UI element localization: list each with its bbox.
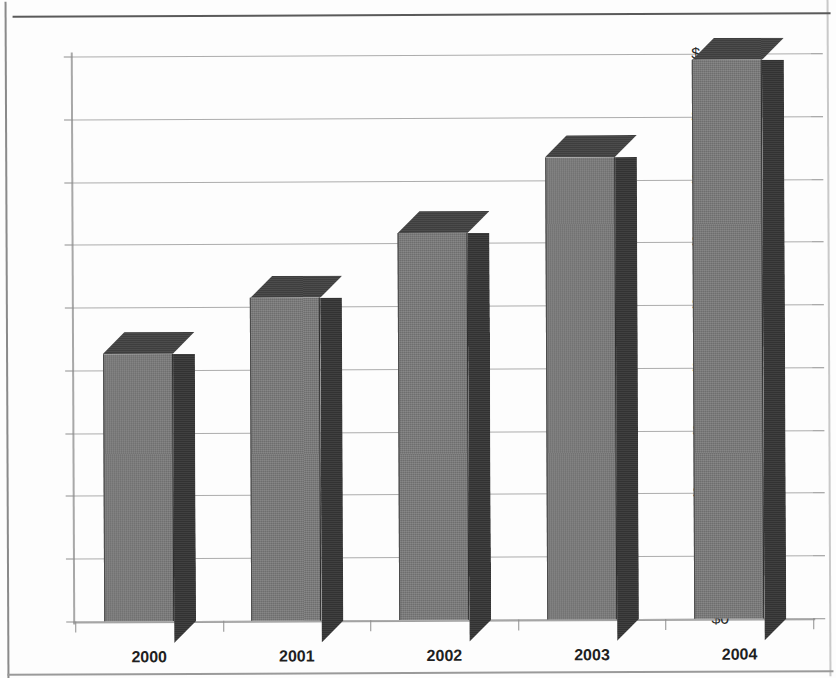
bar-column (250, 276, 344, 621)
bar-column (103, 332, 196, 622)
bar-side-face (320, 298, 344, 643)
y-axis-tick-mark-right (812, 367, 824, 368)
bar-front-face (545, 157, 617, 619)
bar-top-face (545, 135, 637, 157)
y-axis-tick-mark (65, 433, 74, 434)
x-axis-tick-label: 2004 (666, 645, 814, 664)
bar-front-face (398, 233, 470, 620)
bar-top-face (103, 332, 195, 354)
y-axis-tick-mark (65, 370, 74, 371)
y-axis-tick-mark (66, 559, 75, 560)
y-axis-tick-mark-right (811, 179, 823, 180)
bar-top-face (692, 38, 784, 60)
y-axis-tick-mark-right (812, 430, 824, 431)
x-axis-tick-label: 2000 (75, 648, 223, 667)
y-axis-line (71, 53, 75, 625)
y-axis-tick-mark (64, 119, 73, 120)
bar-side-face (468, 233, 492, 642)
bar-side-face (173, 354, 196, 644)
y-axis-tick-mark (65, 308, 74, 309)
x-axis-tick-label: 2001 (223, 647, 371, 666)
x-axis-tick-label: 2002 (371, 647, 519, 666)
x-axis-tick-label: 2003 (518, 646, 666, 665)
bar-top-face (397, 211, 489, 233)
bar-column (692, 38, 787, 619)
y-axis-tick-mark (64, 57, 73, 58)
scanned-plate: $0$50$100$150$200$250$300$350$400$450 20… (0, 0, 836, 678)
chart-title (158, 0, 718, 5)
document-frame-left-border (5, 2, 10, 678)
bar-front-face (103, 354, 174, 622)
title-underline-rule (13, 12, 831, 18)
x-axis-tick-mark (666, 619, 667, 630)
y-axis-tick-mark (64, 182, 73, 183)
bar-top-face (250, 276, 342, 298)
bar-column (545, 135, 639, 619)
y-axis-tick-mark (66, 621, 75, 622)
x-axis-tick-mark (813, 618, 814, 629)
x-axis-tick-mark (518, 620, 519, 631)
document-frame-right-border (827, 0, 832, 676)
bar-side-face (615, 157, 639, 641)
y-axis-tick-mark-right (813, 618, 825, 619)
bar-front-face (250, 298, 321, 621)
y-axis-tick-mark (65, 245, 74, 246)
x-axis-tick-mark (75, 621, 76, 632)
plot-area: $0$50$100$150$200$250$300$350$400$450 20… (73, 53, 813, 621)
bar-side-face (762, 60, 787, 641)
y-axis-tick-mark (66, 496, 75, 497)
y-axis-tick-mark-right (811, 116, 823, 117)
y-axis-tick-mark-right (813, 493, 825, 494)
bar-front-face (692, 60, 764, 619)
y-axis-tick-mark-right (811, 53, 823, 54)
x-axis-tick-mark (223, 621, 224, 632)
bar-chart-figure: $0$50$100$150$200$250$300$350$400$450 20… (0, 0, 836, 678)
y-axis-tick-mark-right (812, 242, 824, 243)
y-axis-tick-mark-right (812, 304, 824, 305)
document-frame-bottom-border (7, 670, 833, 676)
x-axis-tick-mark (370, 620, 371, 631)
bar-column (397, 211, 491, 620)
y-axis-tick-mark-right (813, 555, 825, 556)
